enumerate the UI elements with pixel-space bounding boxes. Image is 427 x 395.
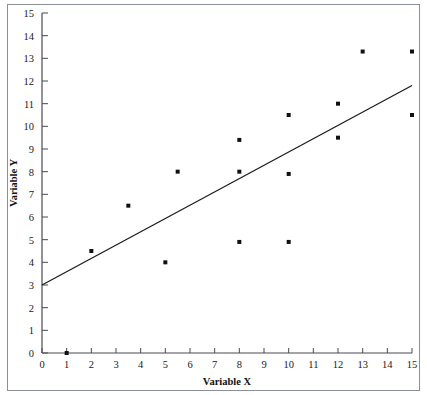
x-tick-label: 4 [138, 359, 144, 370]
data-point [163, 260, 167, 264]
y-tick-label: 4 [29, 257, 35, 268]
data-point [176, 170, 180, 174]
x-tick-label: 9 [261, 359, 266, 370]
y-tick-label: 6 [29, 212, 34, 223]
x-tick-label: 1 [64, 359, 69, 370]
data-point [410, 50, 414, 54]
data-point [237, 138, 241, 142]
chart-figure: 0123456789101112131415012345678910111213… [0, 0, 427, 395]
data-point [126, 204, 130, 208]
trend-line [42, 86, 412, 285]
y-axis-title: Variable Y [8, 159, 19, 207]
data-point [287, 113, 291, 117]
x-tick-label: 2 [89, 359, 94, 370]
data-point [410, 113, 414, 117]
x-tick-label: 5 [163, 359, 168, 370]
x-tick-label: 10 [283, 359, 294, 370]
data-point [336, 102, 340, 106]
x-tick-label: 3 [113, 359, 118, 370]
y-tick-label: 7 [29, 189, 34, 200]
data-point [336, 136, 340, 140]
y-tick-label: 12 [24, 76, 35, 87]
y-tick-label: 3 [29, 280, 34, 291]
data-point [237, 170, 241, 174]
x-tick-label: 0 [39, 359, 44, 370]
y-tick-label: 0 [29, 348, 34, 359]
x-tick-label: 12 [333, 359, 344, 370]
y-tick-label: 14 [24, 31, 35, 42]
y-tick-label: 15 [24, 8, 35, 19]
y-tick-label: 9 [29, 144, 34, 155]
data-point [237, 240, 241, 244]
data-point [361, 50, 365, 54]
y-tick-label: 10 [24, 121, 35, 132]
x-tick-label: 13 [357, 359, 368, 370]
scatter-plot: 0123456789101112131415012345678910111213… [0, 0, 427, 395]
data-point [65, 351, 69, 355]
y-tick-label: 8 [29, 167, 34, 178]
x-tick-label: 14 [382, 359, 393, 370]
x-tick-label: 11 [308, 359, 318, 370]
x-tick-label: 6 [187, 359, 192, 370]
y-tick-label: 2 [29, 303, 34, 314]
x-tick-label: 8 [237, 359, 242, 370]
x-tick-label: 7 [212, 359, 217, 370]
x-axis-title: Variable X [203, 376, 252, 387]
data-point [287, 240, 291, 244]
y-tick-label: 1 [29, 325, 34, 336]
x-tick-label: 15 [407, 359, 418, 370]
y-tick-label: 11 [24, 99, 34, 110]
data-point [287, 172, 291, 176]
y-tick-label: 5 [29, 235, 34, 246]
data-point [89, 249, 93, 253]
y-tick-label: 13 [24, 53, 35, 64]
